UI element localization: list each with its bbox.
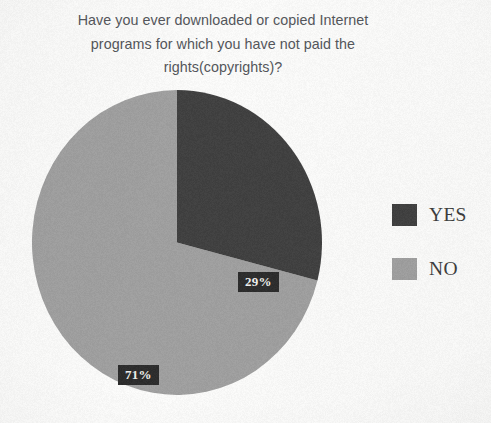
page-title-line-3: rights(copyrights)? (8, 56, 438, 80)
chart-legend: YES NO (392, 188, 467, 296)
pie-slices (32, 90, 322, 395)
page-title-line-2: programs for which you have not paid the (8, 33, 438, 57)
legend-label-yes: YES (429, 204, 467, 226)
page-title: Have you ever downloaded or copied Inter… (8, 9, 438, 80)
legend-swatch-no-icon (392, 258, 417, 280)
legend-item-yes[interactable]: YES (392, 188, 467, 242)
pie-chart-svg (32, 90, 322, 395)
page-title-line-1: Have you ever downloaded or copied Inter… (8, 9, 438, 33)
pie-slice-label-yes: 29% (238, 272, 279, 292)
pie-slice-label-no: 71% (118, 365, 159, 385)
pie-chart: 29% 71% (32, 90, 322, 395)
legend-item-no[interactable]: NO (392, 242, 467, 296)
legend-label-no: NO (429, 258, 458, 280)
legend-swatch-yes-icon (392, 204, 417, 226)
